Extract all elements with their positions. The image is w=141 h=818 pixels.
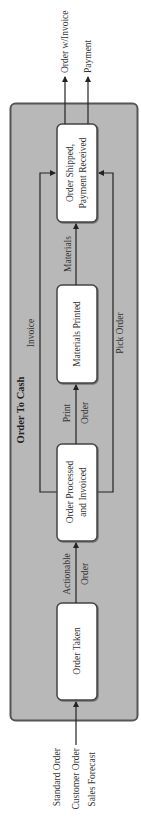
actionable-order-label-2: Order [80,562,90,585]
output-order-invoice-label: Order w/Invoice [60,10,70,73]
step-order-shipped-label-2: Payment Received [78,137,88,208]
input-sales-forecast-label: Sales Forecast [87,752,97,807]
step-order-shipped [57,124,97,222]
print-order-label-2: Order [80,401,90,424]
pick-order-label: Pick Order [115,311,125,353]
input-customer-order-label: Customer Order [71,747,81,809]
step-order-taken-label: Order Taken [72,627,82,675]
diagram-title: Order To Cash [15,376,26,443]
materials-label: Materials [63,236,73,272]
input-standard-order-label: Standard Order [52,747,62,806]
step-materials-printed-label: Materials Printed [72,301,82,367]
step-order-shipped-label-1: Order Shipped, [65,144,75,202]
step-order-processed-label-1: Order Processed [65,460,75,523]
invoice-label: Invoice [26,319,36,348]
order-to-cash-diagram: Order To Cash Invoice Pick Order Order T… [0,0,141,818]
step-order-processed-label-2: and Invoiced [78,467,88,517]
step-order-processed [57,444,97,541]
print-order-label-1: Print [62,403,72,422]
actionable-order-label-1: Actionable [62,553,72,595]
output-payment-label: Payment [83,39,93,73]
